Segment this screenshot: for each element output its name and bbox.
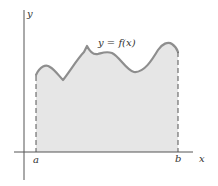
area-under-curve-diagram: y x y = f(x) a b xyxy=(0,0,218,186)
curve-label: y = f(x) xyxy=(97,37,136,48)
a-label: a xyxy=(33,154,39,165)
y-axis-label: y xyxy=(26,8,33,19)
b-label: b xyxy=(175,153,181,164)
shaded-area xyxy=(36,43,178,152)
x-axis-label: x xyxy=(199,153,205,164)
